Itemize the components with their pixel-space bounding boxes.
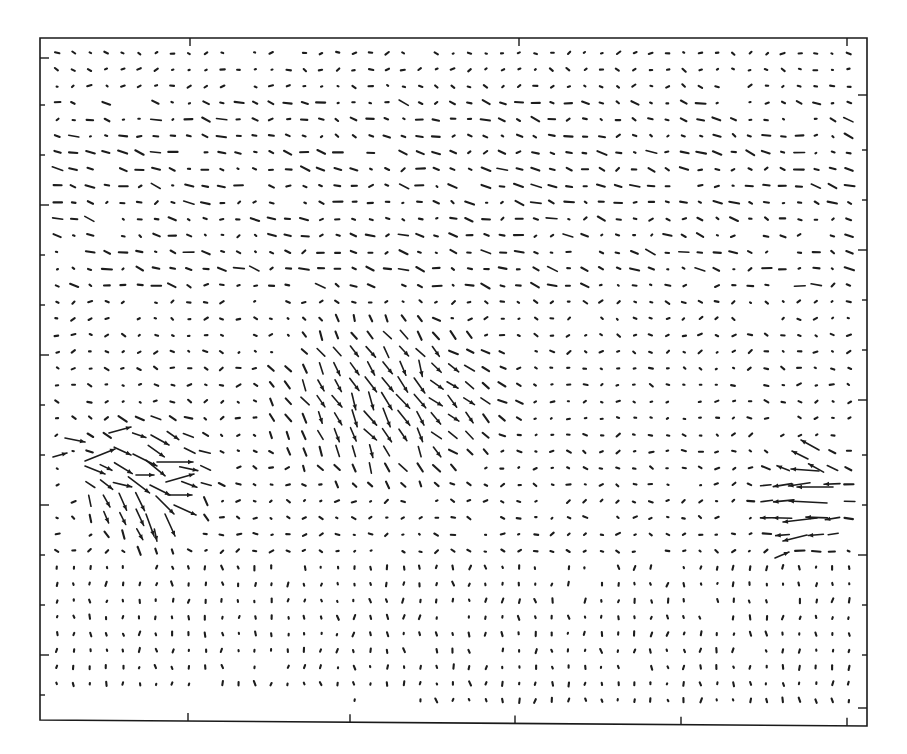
- vector-arrow: [500, 351, 505, 353]
- vector-arrow: [87, 85, 91, 86]
- vector-arrow: [285, 366, 291, 371]
- vector-arrow: [715, 301, 719, 302]
- vector-arrow: [171, 301, 173, 303]
- vector-arrow: [717, 599, 718, 602]
- vector-arrow: [303, 414, 307, 423]
- vector-arrow: [683, 550, 685, 551]
- vector-arrow: [304, 616, 305, 619]
- vector-arrow: [717, 218, 719, 219]
- plot-frame: [40, 38, 867, 726]
- vector-arrow: [733, 616, 734, 619]
- vector-arrow: [186, 268, 191, 270]
- vector-arrow: [453, 285, 454, 286]
- vector-arrow: [56, 649, 57, 652]
- vector-arrow: [287, 85, 290, 86]
- vector-arrow: [55, 336, 59, 337]
- vector-arrow: [482, 185, 491, 188]
- vector-arrow: [288, 666, 289, 668]
- arrowhead-icon: [187, 493, 192, 498]
- vector-arrow: [237, 384, 241, 386]
- vector-arrow: [617, 219, 621, 220]
- vector-arrow: [502, 682, 503, 686]
- vector-arrow: [123, 616, 124, 618]
- vector-arrow: [699, 617, 700, 619]
- vector-arrow: [416, 267, 424, 271]
- vector-arrow: [583, 516, 587, 518]
- vector-arrow: [304, 203, 306, 204]
- vector-arrow: [535, 616, 536, 618]
- vector-arrow: [271, 683, 272, 685]
- vector-arrow: [798, 335, 801, 336]
- vector-arrow: [762, 135, 770, 136]
- vector-arrow: [88, 168, 93, 170]
- vector-arrow: [354, 615, 356, 619]
- vector-arrow: [567, 351, 570, 354]
- vector-arrow: [436, 583, 437, 585]
- vector-arrow: [270, 52, 273, 54]
- vector-arrow: [419, 534, 420, 535]
- vector-arrow: [615, 185, 622, 187]
- vector-arrow: [90, 535, 92, 536]
- vector-arrow: [668, 700, 669, 701]
- vector-arrow: [546, 218, 557, 219]
- vector-arrow: [568, 534, 570, 536]
- vector-arrow: [55, 400, 58, 402]
- vector-arrow: [682, 518, 685, 519]
- vector-arrow: [616, 501, 618, 503]
- vector-arrow: [432, 136, 440, 137]
- vector-arrow: [253, 551, 256, 552]
- vector-arrow: [827, 466, 837, 471]
- vector-arrow: [848, 202, 851, 204]
- vector-arrow: [568, 52, 570, 54]
- vector-arrow: [597, 185, 605, 187]
- vector-arrow: [698, 252, 703, 253]
- vector-arrow: [303, 318, 305, 320]
- vector-arrow: [88, 69, 91, 71]
- vector-arrow: [419, 552, 421, 553]
- vector-arrow: [750, 52, 752, 54]
- vector-arrow: [154, 401, 157, 402]
- vector-arrow: [321, 600, 322, 602]
- vector-arrow: [205, 86, 208, 88]
- vector-arrow: [469, 584, 470, 586]
- arrowhead-icon: [354, 421, 358, 426]
- vector-arrow: [536, 649, 537, 653]
- vector-arrow: [713, 268, 719, 271]
- vector-arrow: [400, 184, 409, 189]
- vector-arrow: [56, 352, 59, 353]
- vector-arrow: [205, 52, 208, 54]
- vector-arrow: [56, 518, 57, 519]
- vector-arrow: [832, 681, 833, 685]
- vector-arrow: [501, 451, 503, 452]
- vector-arrow: [252, 135, 256, 136]
- vector-arrow: [552, 667, 553, 669]
- vector-arrow: [683, 666, 684, 669]
- vector-arrow: [270, 268, 272, 270]
- vector-arrow: [399, 100, 408, 105]
- arrowhead-icon: [140, 434, 145, 438]
- arrowhead-icon: [149, 473, 154, 478]
- vector-arrow: [502, 86, 504, 87]
- arrowhead-icon: [335, 436, 339, 441]
- vector-arrow: [700, 551, 701, 552]
- vector-arrow: [72, 69, 75, 71]
- vector-arrow: [319, 119, 324, 120]
- vector-arrow: [799, 649, 800, 652]
- vector-arrow: [750, 533, 752, 534]
- vector-arrow: [831, 334, 834, 335]
- vector-arrow: [336, 52, 339, 53]
- vector-arrow: [139, 384, 141, 385]
- vector-arrow: [485, 633, 486, 636]
- vector-arrow: [450, 218, 456, 219]
- vector-arrow: [533, 267, 538, 270]
- vector-arrow: [106, 550, 109, 553]
- vector-arrow: [255, 616, 256, 619]
- vector-arrow: [715, 401, 718, 402]
- vector-arrow: [699, 467, 702, 469]
- vector-arrow: [222, 665, 223, 668]
- vector-arrow: [585, 69, 587, 70]
- vector-arrow: [201, 466, 211, 471]
- vector-arrow: [171, 318, 173, 320]
- vector-arrow: [384, 347, 389, 358]
- vector-arrow: [368, 483, 372, 487]
